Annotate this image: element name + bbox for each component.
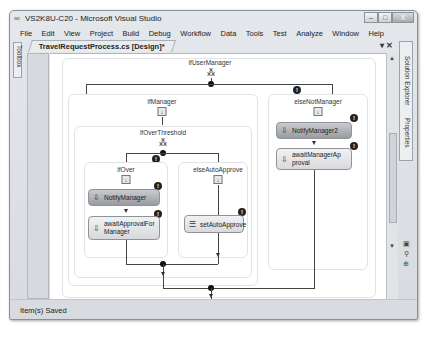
menu-file[interactable]: File — [20, 27, 32, 41]
ifManager-label: ifManager — [148, 98, 177, 105]
branch-start-icon: ↓ — [122, 175, 131, 184]
scroll-thumb[interactable] — [389, 133, 397, 223]
workflow-designer-canvas[interactable]: ifUserManager ⁂ ! ifManager ↓ ifOverThre… — [50, 53, 386, 299]
code-activity-icon: ☰ — [189, 220, 196, 229]
toolbox-tab[interactable]: Toolbox — [13, 42, 22, 78]
minimize-button[interactable]: ‒ — [364, 12, 378, 23]
title-bar: ∞ VS2K8U-C20 - Microsoft Visual Studio ‒… — [10, 11, 417, 27]
menu-test[interactable]: Test — [273, 27, 287, 41]
menu-edit[interactable]: Edit — [42, 27, 55, 41]
menu-help[interactable]: Help — [369, 27, 384, 41]
vs-window: ∞ VS2K8U-C20 - Microsoft Visual Studio ‒… — [9, 10, 418, 320]
branch-icon: ⁂ — [159, 138, 167, 147]
menu-analyze[interactable]: Analyze — [296, 27, 323, 41]
notifyManager2-activity[interactable]: ⇩ NotifyManager2 — [276, 122, 352, 139]
menu-window[interactable]: Window — [332, 27, 359, 41]
elseAutoApprove-label: elseAutoApprove — [193, 166, 243, 173]
fit-icon[interactable]: ⊕ — [403, 259, 409, 269]
properties-label: Properties — [402, 118, 411, 148]
awaitManagerApproval-activity[interactable]: ⇩ awaitManagerAp proval — [276, 148, 352, 170]
warning-icon[interactable]: ! — [293, 86, 301, 94]
zoom-controls: ▣ ⚲ ⊕ — [399, 239, 413, 269]
ifOver-label: ifOver — [117, 166, 134, 173]
scroll-down-icon[interactable]: ▼ — [389, 243, 395, 249]
menu-bar: File Edit View Project Build Debug Workf… — [10, 27, 417, 41]
menu-debug[interactable]: Debug — [149, 27, 171, 41]
menu-project[interactable]: Project — [90, 27, 113, 41]
menu-data[interactable]: Data — [221, 27, 237, 41]
branch-start-icon: ↓ — [158, 107, 167, 116]
toolbox-label: Toolbox — [14, 45, 23, 67]
scroll-up-icon[interactable]: ▲ — [389, 55, 395, 61]
awaitApprovalForManager-activity[interactable]: ⇩ awaitApprovalFor Manager — [88, 216, 160, 240]
maximize-button[interactable]: □ — [378, 12, 392, 23]
pan-icon[interactable]: ⚲ — [404, 249, 409, 259]
menu-workflow[interactable]: Workflow — [180, 27, 211, 41]
notifyManager-activity[interactable]: ⇩ NotifyManager — [88, 189, 160, 206]
vs-logo-icon: ∞ — [14, 14, 23, 23]
activity-icon: ⇩ — [93, 193, 100, 202]
window-title: VS2K8U-C20 - Microsoft Visual Studio — [25, 14, 161, 23]
menu-tools[interactable]: Tools — [246, 27, 264, 41]
ifUserManager-label: ifUserManager — [189, 59, 232, 66]
elseNotManager-label: elseNotManager — [294, 98, 342, 105]
menu-view[interactable]: View — [64, 27, 80, 41]
tab-close-icon[interactable]: ✕ — [386, 41, 393, 50]
activity-icon: ⇩ — [281, 155, 288, 164]
document-tab-label: TravelRequestProcess.cs [Design]* — [39, 41, 165, 53]
status-text: Item(s) Saved — [20, 306, 67, 315]
menu-build[interactable]: Build — [123, 27, 140, 41]
designer-left-margin — [27, 53, 49, 299]
setAutoApprove-activity[interactable]: ☰ setAutoApprove — [184, 215, 244, 233]
zoom-icon[interactable]: ▣ — [403, 239, 410, 249]
status-bar: Item(s) Saved — [10, 299, 417, 319]
tab-dropdown-icon[interactable]: ▾ — [380, 41, 384, 50]
vertical-scrollbar[interactable]: ▲ ▼ — [386, 53, 398, 299]
branch-start-icon: ↓ — [214, 175, 223, 184]
activity-icon: ⇩ — [93, 224, 100, 233]
activity-icon: ⇩ — [281, 126, 288, 135]
ifOverThreshold-label: ifOverThreshold — [140, 129, 186, 136]
document-tab[interactable]: TravelRequestProcess.cs [Design]* — [28, 40, 176, 52]
close-button[interactable]: X — [392, 12, 414, 23]
branch-start-icon: ↓ — [314, 107, 323, 116]
warning-icon[interactable]: ! — [350, 114, 358, 122]
branch-icon: ⁂ — [207, 68, 215, 77]
solution-explorer-tab[interactable]: Solution Explorer Properties — [399, 41, 413, 161]
solution-explorer-label: Solution Explorer — [402, 56, 411, 106]
